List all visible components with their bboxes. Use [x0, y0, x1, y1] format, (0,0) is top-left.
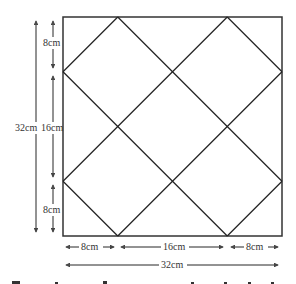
vertical-segment-top-label: 8cm	[43, 37, 60, 48]
outer-square	[63, 17, 282, 236]
vertical-total-label: 32cm	[15, 122, 37, 133]
horizontal-segment-middle-label: 16cm	[163, 241, 185, 252]
diagonal-lattice	[63, 17, 282, 236]
square-lattice-diagram: 32cm 8cm 16cm 8cm 8cm 16cm 8cm	[0, 0, 296, 284]
vertical-segment-middle-label: 16cm	[41, 122, 63, 133]
horizontal-total-label: 32cm	[161, 259, 183, 270]
vertical-segment-bottom-label: 8cm	[43, 204, 60, 215]
horizontal-segment-right-label: 8cm	[246, 241, 263, 252]
horizontal-segment-left-label: 8cm	[81, 241, 98, 252]
